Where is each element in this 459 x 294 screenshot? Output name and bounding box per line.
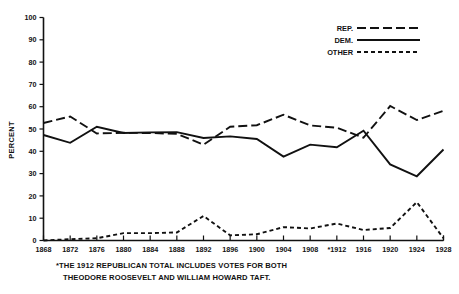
- y-axis-label: PERCENT: [7, 121, 16, 159]
- y-tick-label: 70: [29, 80, 37, 89]
- y-tick-label: 90: [29, 35, 37, 44]
- y-tick-label: 100: [25, 13, 37, 22]
- y-tick-label: 40: [29, 147, 37, 156]
- x-tick-label: 1888: [169, 245, 185, 254]
- x-tick-label: 1872: [62, 245, 78, 254]
- footnote-line: THEODORE ROOSEVELT AND WILLIAM HOWARD TA…: [63, 273, 271, 282]
- x-tick-label: 1928: [436, 245, 452, 254]
- x-tick-label: 1904: [276, 245, 292, 254]
- y-tick-label: 10: [29, 214, 37, 223]
- y-tick-label: 20: [29, 192, 37, 201]
- legend-label-other: OTHER: [327, 48, 354, 57]
- x-tick-label: 1900: [249, 245, 265, 254]
- footnote-line: *THE 1912 REPUBLICAN TOTAL INCLUDES VOTE…: [56, 261, 287, 270]
- x-tick-label: 1884: [142, 245, 158, 254]
- y-tick-label: 60: [29, 102, 37, 111]
- chart-container: 0102030405060708090100 18681872187618801…: [0, 0, 459, 294]
- x-tick-label: 1916: [356, 245, 372, 254]
- x-tick-label: 1892: [196, 245, 212, 254]
- x-tick-label: 1896: [222, 245, 238, 254]
- legend-label-dem: DEM.: [335, 36, 353, 45]
- x-tick-label: 1880: [116, 245, 132, 254]
- x-tick-label: 1868: [36, 245, 52, 254]
- x-tick-label: 1908: [302, 245, 318, 254]
- x-tick-label: 1876: [89, 245, 105, 254]
- y-tick-label: 80: [29, 58, 37, 67]
- y-tick-label: 50: [29, 125, 37, 134]
- x-tick-label: *1912: [327, 245, 346, 254]
- x-tick-label: 1924: [409, 245, 425, 254]
- y-axis-label-text: PERCENT: [7, 121, 16, 159]
- percent-of-popular-vote-line-chart: 0102030405060708090100 18681872187618801…: [0, 0, 459, 294]
- legend-label-rep: REP.: [337, 24, 353, 33]
- x-tick-label: 1920: [382, 245, 398, 254]
- y-tick-label: 30: [29, 169, 37, 178]
